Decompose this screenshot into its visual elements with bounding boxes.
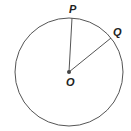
radius-oq (69, 38, 111, 72)
label-q: Q (113, 26, 122, 38)
radius-op (69, 18, 72, 72)
label-p: P (69, 3, 77, 15)
circle-diagram: P Q O (0, 0, 131, 131)
label-o: O (66, 76, 75, 88)
center-point (67, 70, 71, 74)
